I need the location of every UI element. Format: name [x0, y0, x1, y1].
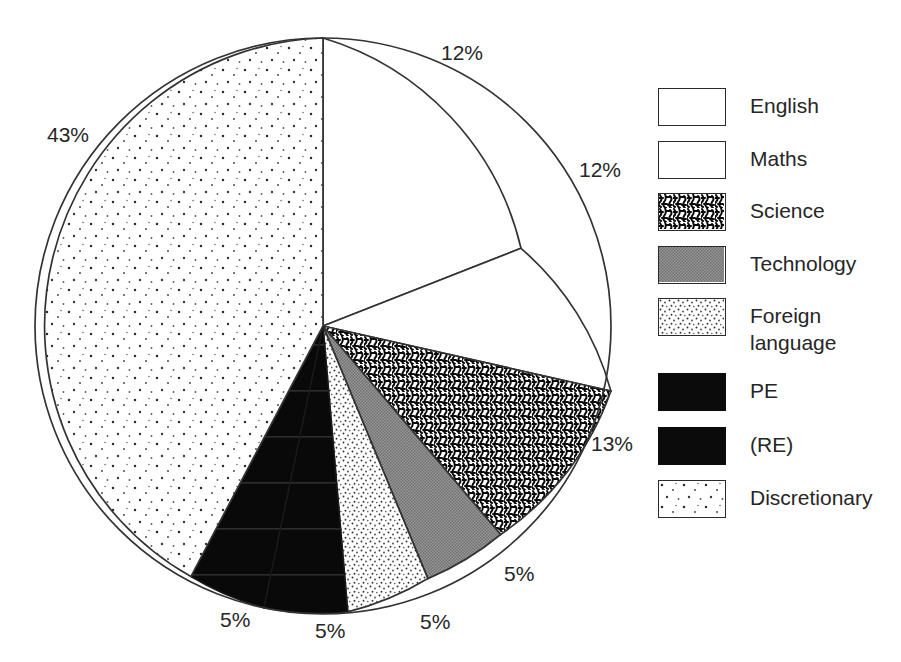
- pie-label-re-pct: 5%: [315, 619, 345, 643]
- legend-swatch-maths: [658, 141, 726, 179]
- legend-label-english: English: [750, 92, 819, 119]
- pie-label-foreign-language-pct: 5%: [420, 610, 450, 634]
- legend-swatch-re: [658, 427, 726, 465]
- legend-label-science: Science: [750, 197, 825, 224]
- legend-label-maths: Maths: [750, 145, 807, 172]
- pie-label-discretionary-pct: 43%: [47, 123, 89, 147]
- pie-slices: [45, 38, 611, 613]
- pie-chart-figure: 43% 12% 12% 13% 5% 5% 5% 5% English Math…: [0, 0, 901, 662]
- legend-label-pe: PE: [750, 377, 778, 404]
- legend-swatch-science: [658, 193, 726, 231]
- pie-label-technology-pct: 5%: [504, 562, 534, 586]
- legend-swatch-foreign-language: [658, 298, 726, 336]
- legend-label-technology: Technology: [750, 250, 856, 277]
- pie-label-science-pct: 13%: [591, 432, 633, 456]
- legend-swatch-technology: [658, 246, 726, 284]
- legend-label-foreign-language: Foreign language: [750, 302, 836, 356]
- legend-label-re: (RE): [750, 431, 793, 458]
- pie-label-english-pct: 12%: [441, 41, 483, 65]
- legend-swatch-pe: [658, 373, 726, 411]
- legend-label-discretionary: Discretionary: [750, 484, 873, 511]
- legend-swatch-discretionary: [658, 480, 726, 518]
- pie-label-maths-pct: 12%: [579, 158, 621, 182]
- legend-swatch-english: [658, 88, 726, 126]
- pie-label-pe-pct: 5%: [220, 608, 250, 632]
